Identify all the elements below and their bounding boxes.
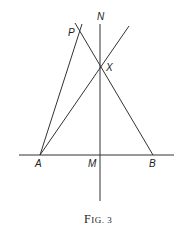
point-label-P: P: [68, 28, 75, 38]
line-A-through-X: [40, 26, 129, 155]
point-label-N: N: [97, 12, 104, 22]
figure-canvas: N P X A M B FIG. 3: [0, 0, 187, 237]
figure-caption: FIG. 3: [84, 213, 112, 225]
caption-rest: IG. 3: [91, 215, 112, 225]
point-label-A: A: [35, 159, 42, 169]
line-B-through-X-to-P: [75, 23, 153, 155]
point-label-X: X: [106, 63, 113, 73]
line-A-to-P: [40, 24, 82, 155]
point-label-M: M: [88, 159, 96, 169]
point-label-B: B: [149, 159, 156, 169]
geometry-drawing: [0, 0, 187, 237]
